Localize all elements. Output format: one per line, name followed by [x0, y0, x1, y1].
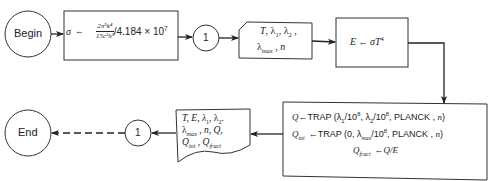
sub-fract: fract [360, 151, 371, 157]
sub-max: max [362, 135, 372, 141]
trap-line1: Q←TRAP (λ1/108, λ2/108, PLANCK , n) [292, 113, 445, 122]
input-card-line2: λmax , n [257, 42, 285, 52]
sigma-formula: σ ← 2π⁵k⁴ 15c²h³ /4.184 × 107 [66, 23, 168, 40]
close-paren: ) [442, 112, 445, 122]
out-n-q: , n, Q, [197, 125, 223, 135]
edge-e-to-trap [408, 43, 444, 103]
fraction-denominator: 15c²h³ [96, 32, 114, 40]
e-symbol: E [350, 36, 356, 47]
sub-max: max [262, 47, 273, 54]
assign-arrow: ← [309, 129, 318, 139]
output-line2: λmax , n, Q, [182, 126, 223, 136]
divisor: /4.184 × 107 [114, 27, 168, 37]
sigma-symbol: σ [66, 27, 71, 37]
assign-arrow: ← [359, 37, 368, 47]
assign-arrow: ← [299, 112, 308, 122]
connector-bottom-label: 1 [135, 128, 141, 138]
fraction-numerator: 2π⁵k⁴ [96, 23, 114, 32]
sigma-t: σT [370, 36, 381, 47]
q-symbol: Q [182, 137, 189, 147]
assign-arrow: ← [75, 27, 84, 36]
planck: , PLANCK , [389, 112, 438, 122]
comma-lambda: , λ [360, 112, 370, 122]
comma-q: , Q [195, 137, 209, 147]
sub-1: 1 [275, 31, 278, 38]
assign-arrow: ← [375, 145, 384, 155]
sub-2: 2 [289, 31, 292, 38]
card-n: , n [273, 41, 286, 52]
output-line1: T, E, λ1, λ2. [182, 114, 224, 124]
divisor-exponent: 7 [164, 24, 168, 31]
trap-line3: Qfract←Q/E [353, 146, 398, 155]
connector-top-label: 1 [203, 33, 209, 43]
trap-call: TRAP (λ [308, 112, 342, 122]
planck: , PLANCK , [387, 129, 436, 139]
input-card-line1: TT, λ, λ1, λ2 , [260, 26, 297, 36]
sigma-fraction: 2π⁵k⁴ 15c²h³ [96, 23, 114, 40]
output-line3: Qtot , Qfract [182, 138, 221, 148]
trap-line2: Qtot←TRAP (0, λmax/108, PLANCK , n) [292, 130, 443, 139]
begin-label: Begin [14, 28, 42, 39]
over-1e8: /10 [373, 112, 386, 122]
trap-call: TRAP (0, λ [318, 129, 362, 139]
divisor-text: /4.184 × 10 [114, 26, 164, 37]
sub-tot: tot [299, 135, 305, 141]
over-1e8: /10 [345, 112, 358, 122]
over-1e8: /10 [371, 129, 384, 139]
close-paren: ) [440, 129, 443, 139]
sub-max: max [187, 131, 197, 137]
period: . [222, 113, 224, 123]
out-t-e: T, E, λ [182, 113, 206, 123]
exp-4: 4 [381, 35, 384, 42]
e-formula: E ← σT4 [350, 37, 384, 47]
q-over-e: Q/E [384, 145, 399, 155]
edge-card-to-e [312, 41, 335, 42]
sub-fract: fract [209, 143, 221, 149]
end-label: End [18, 127, 38, 138]
